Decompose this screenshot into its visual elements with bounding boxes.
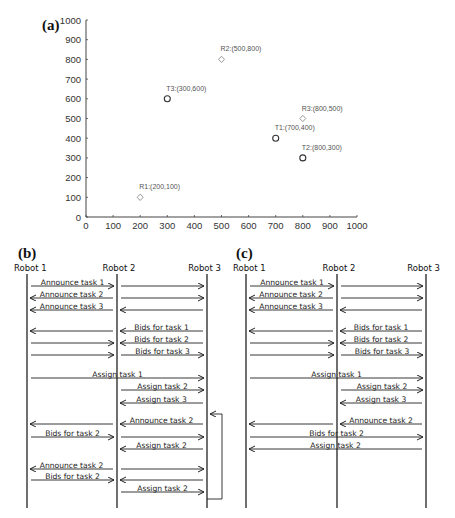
- message-label: Announce task 2: [259, 290, 323, 299]
- panel-c-sequence: (c) Robot 1Robot 2Robot 3Announce task 1…: [233, 245, 440, 508]
- message-label: Bids for task 3: [135, 347, 190, 356]
- y-tick-label: 200: [65, 172, 81, 183]
- x-tick-label: 800: [295, 220, 311, 231]
- y-tick-label: 500: [65, 113, 81, 124]
- message-label: Announce task 2: [40, 290, 104, 299]
- message-label: Assign task 3: [136, 395, 187, 404]
- y-tick-label: 600: [65, 93, 81, 104]
- x-tick-label: 600: [241, 220, 257, 231]
- sequence-diagram-c: Robot 1Robot 2Robot 3Announce task 1Anno…: [233, 263, 440, 508]
- message-label: Bids for task 1: [354, 323, 409, 332]
- y-tick-label: 400: [65, 133, 81, 144]
- message-label: Bids for task 2: [134, 335, 189, 344]
- message-label: Assign task 2: [137, 484, 188, 493]
- message-label: Assign task 3: [356, 395, 407, 404]
- robot-marker-diamond-icon: [137, 194, 143, 200]
- panel-c-label: (c): [236, 245, 253, 262]
- y-tick-label: 300: [65, 152, 81, 163]
- task-marker-circle-icon: [300, 155, 306, 161]
- point-label: R2:(500,800): [221, 45, 262, 53]
- point-label: R1:(200,100): [139, 183, 180, 191]
- y-tick-label: 100: [65, 192, 81, 203]
- robot-marker-diamond-icon: [300, 115, 306, 121]
- message-label: Announce task 2: [130, 416, 194, 425]
- loop-bracket-arrow: [207, 414, 222, 499]
- x-tick-label: 100: [105, 220, 121, 231]
- y-tick-label: 0: [76, 212, 81, 223]
- x-tick-label: 900: [322, 220, 338, 231]
- message-label: Assign task 1: [311, 370, 362, 379]
- y-tick-label: 800: [65, 54, 81, 65]
- scatter-points: R1:(200,100)R2:(500,800)R3:(800,500)T1:(…: [137, 45, 342, 200]
- x-tick-label: 200: [132, 220, 148, 231]
- x-tick-label: 400: [186, 220, 202, 231]
- point-label: R3:(800,500): [302, 105, 343, 113]
- lifeline-label-robot-1: Robot 1: [14, 263, 47, 273]
- robot-marker-diamond-icon: [219, 56, 225, 62]
- message-label: Assign task 2: [137, 382, 188, 391]
- point-label: T1:(700,400): [275, 124, 315, 132]
- message-label: Bids for task 3: [355, 347, 410, 356]
- message-label: Assign task 2: [310, 441, 361, 450]
- message-label: Bids for task 2: [45, 429, 100, 438]
- message-label: Assign task 1: [92, 370, 143, 379]
- lifeline-label-robot-2: Robot 2: [323, 263, 356, 273]
- point-label: T2:(800,300): [302, 144, 342, 152]
- message-label: Bids for task 2: [354, 335, 409, 344]
- message-label: Assign task 2: [357, 382, 408, 391]
- lifeline-label-robot-2: Robot 2: [103, 263, 136, 273]
- message-label: Announce task 1: [260, 278, 324, 287]
- y-tick-label: 900: [65, 34, 81, 45]
- figure: (a) 010020030040050060070080090010000100…: [0, 0, 455, 518]
- message-label: Bids for task 1: [134, 323, 189, 332]
- panel-b-sequence: (b) Robot 1Robot 2Robot 3Announce task 1…: [14, 245, 222, 508]
- lifeline-label-robot-3: Robot 3: [407, 263, 440, 273]
- panel-a-label: (a): [42, 17, 60, 34]
- message-label: Assign task 2: [136, 441, 187, 450]
- message-label: Bids for task 2: [45, 472, 100, 481]
- lifeline-label-robot-3: Robot 3: [188, 263, 221, 273]
- x-tick-label: 0: [83, 220, 88, 231]
- point-label: T3:(300,600): [166, 85, 206, 93]
- message-label: Announce task 3: [259, 302, 323, 311]
- y-tick-label: 1000: [60, 15, 81, 26]
- task-marker-circle-icon: [273, 135, 279, 141]
- scatter-axes: 0100200300400500600700800900100001002003…: [60, 15, 368, 232]
- message-label: Announce task 2: [349, 416, 413, 425]
- message-label: Announce task 3: [40, 302, 104, 311]
- x-tick-label: 1000: [346, 220, 367, 231]
- y-tick-label: 700: [65, 74, 81, 85]
- message-label: Announce task 2: [40, 461, 104, 470]
- sequence-diagram-b: Robot 1Robot 2Robot 3Announce task 1Anno…: [14, 263, 222, 508]
- message-label: Bids for task 2: [309, 429, 364, 438]
- panel-b-label: (b): [18, 245, 36, 262]
- task-marker-circle-icon: [164, 96, 170, 102]
- panel-a-scatter: (a) 010020030040050060070080090010000100…: [42, 15, 368, 232]
- x-tick-label: 500: [214, 220, 230, 231]
- x-tick-label: 700: [268, 220, 284, 231]
- x-tick-label: 300: [159, 220, 175, 231]
- message-label: Announce task 1: [41, 278, 105, 287]
- lifeline-label-robot-1: Robot 1: [233, 263, 266, 273]
